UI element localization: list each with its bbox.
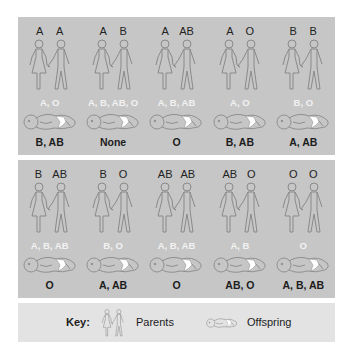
parents-couple-icon [153,39,199,91]
father-blood-type: O [245,167,257,181]
father-blood-type: B [117,24,129,38]
parents-couple-icon [153,182,199,234]
father-blood-type: A [54,24,66,38]
mother-blood-type: AB [223,167,238,181]
parents-couple-icon [90,182,136,234]
parent-combination-cell: O O O A, B, AB [272,160,335,298]
impossible-offspring-types: O [145,279,208,292]
sleeping-baby-icon [212,253,268,275]
parent-combination-cell: A O A, O B, AB [208,17,271,155]
parents-couple-icon [90,39,136,91]
sleeping-baby-icon [275,253,331,275]
parent-blood-types: B B [272,24,335,38]
mother-blood-type: O [287,167,299,181]
parent-blood-types: A AB [145,24,208,38]
parents-couple-icon [27,39,73,91]
mother-blood-type: B [32,167,44,181]
parent-blood-types: B O [81,167,144,181]
impossible-offspring-types: AB, O [208,279,271,292]
parent-blood-types: O O [272,167,335,181]
parents-couple-icon [100,309,126,337]
parent-combination-cell: AB AB A, B, AB O [145,160,208,298]
parent-combination-cell: A AB A, B, AB O [145,17,208,155]
possible-offspring-types: A, B, AB, O [81,97,144,109]
sleeping-baby-icon [85,110,141,132]
key-parents-label: Parents [136,316,174,328]
father-blood-type: AB [179,24,194,38]
sleeping-baby-icon [275,110,331,132]
clipped-heading [18,0,178,3]
parent-combination-cell: B B B, O A, AB [272,17,335,155]
father-blood-type: AB [180,167,195,181]
parent-combination-cell: A A A, O B, AB [18,17,81,155]
possible-offspring-types: A, B, AB [145,240,208,252]
mother-blood-type: B [287,24,299,38]
legend-key: Key: Parents Offspring [18,303,335,342]
sleeping-baby-icon [22,110,78,132]
father-blood-type: O [244,24,256,38]
impossible-offspring-types: A, AB [272,136,335,149]
possible-offspring-types: B, O [81,240,144,252]
sleeping-baby-icon [148,110,204,132]
impossible-offspring-types: A, B, AB [272,279,335,292]
mother-blood-type: AB [158,167,173,181]
parent-blood-types: B AB [18,167,81,181]
parent-blood-types: AB AB [145,167,208,181]
parent-combination-cell: AB O A, B AB, O [208,160,271,298]
impossible-offspring-types: O [18,279,81,292]
parent-blood-types: A B [81,24,144,38]
impossible-offspring-types: O [145,136,208,149]
key-offspring-label: Offspring [247,316,291,328]
parent-combination-cell: B O B, O A, AB [81,160,144,298]
mother-blood-type: B [97,167,109,181]
sleeping-baby-icon [22,253,78,275]
mother-blood-type: A [224,24,236,38]
possible-offspring-types: A, O [208,97,271,109]
key-label: Key: [66,316,90,328]
parents-couple-icon [27,182,73,234]
parent-combination-cell: B AB A, B, AB O [18,160,81,298]
possible-offspring-types: O [272,240,335,252]
mother-blood-type: A [97,24,109,38]
parent-combination-cell: A B A, B, AB, O None [81,17,144,155]
mother-blood-type: A [159,24,171,38]
possible-offspring-types: A, O [18,97,81,109]
parent-blood-types: A A [18,24,81,38]
parent-blood-types: AB O [208,167,271,181]
sleeping-baby-icon [148,253,204,275]
sleeping-baby-icon [85,253,141,275]
parents-couple-icon [280,39,326,91]
impossible-offspring-types: None [81,136,144,149]
possible-offspring-types: A, B [208,240,271,252]
impossible-offspring-types: A, AB [81,279,144,292]
sleeping-baby-icon [205,316,239,329]
impossible-offspring-types: B, AB [18,136,81,149]
parents-couple-icon [280,182,326,234]
blood-type-panel-1: A A A, O B, AB A B A, B, AB, O None A AB… [18,17,335,155]
possible-offspring-types: A, B, AB [145,97,208,109]
possible-offspring-types: A, B, AB [18,240,81,252]
impossible-offspring-types: B, AB [208,136,271,149]
parents-couple-icon [217,39,263,91]
father-blood-type: AB [52,167,67,181]
father-blood-type: O [117,167,129,181]
blood-type-panel-2: B AB A, B, AB O B O B, O A, AB AB AB A, … [18,160,335,298]
mother-blood-type: A [34,24,46,38]
parents-couple-icon [217,182,263,234]
father-blood-type: B [307,24,319,38]
father-blood-type: O [307,167,319,181]
parent-blood-types: A O [208,24,271,38]
sleeping-baby-icon [212,110,268,132]
possible-offspring-types: B, O [272,97,335,109]
